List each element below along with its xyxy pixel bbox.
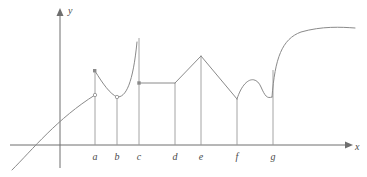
curve-segment-b-to-c-asymptote [117, 42, 137, 97]
x-axis-label: x [355, 142, 359, 152]
open-point-a-icon [93, 93, 96, 96]
tick-label-g: g [267, 152, 279, 162]
endpoint-markers-group [93, 69, 141, 99]
plot-canvas [0, 0, 367, 177]
curve-segment-f-to-g-wave [237, 80, 272, 99]
tick-label-c: c [133, 152, 145, 162]
tick-label-d: d [169, 152, 181, 162]
vertical-drop-lines-group [95, 38, 273, 145]
tick-label-b: b [111, 152, 123, 162]
x-axis-arrow-icon [345, 142, 353, 149]
curve-segment-e-to-f-falling [201, 56, 237, 99]
open-point-b-icon [115, 95, 118, 98]
tick-label-f: f [231, 152, 243, 162]
function-graph-figure: y x a b c d e f g [0, 0, 367, 177]
function-curve-group [12, 27, 355, 170]
tick-label-e: e [195, 152, 207, 162]
curve-segment-left-increasing [12, 95, 95, 170]
filled-point-a-icon [93, 69, 96, 72]
curve-segment-g-steep-rise [272, 27, 355, 97]
y-axis-arrow-icon [57, 8, 64, 16]
y-axis-label: y [68, 6, 72, 16]
filled-point-c-icon [137, 81, 140, 84]
tick-label-a: a [89, 152, 101, 162]
curve-segment-d-to-e-rising [175, 56, 201, 83]
curve-segment-a-to-b [95, 71, 117, 97]
